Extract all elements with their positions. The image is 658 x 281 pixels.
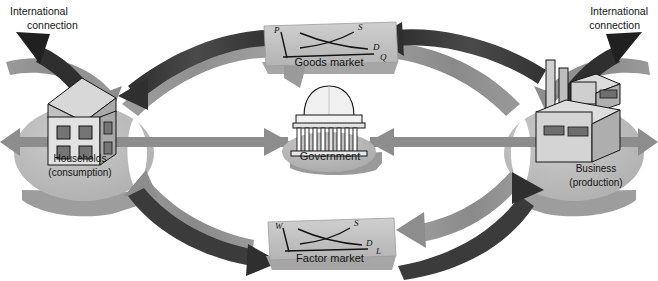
factory-upper-front [571, 82, 596, 104]
capitol-column [313, 128, 317, 152]
international-right-line1: International [590, 5, 648, 17]
factor-market-label: Factor market [296, 252, 364, 264]
house-window [79, 126, 92, 139]
goods-market-panel: P Q S D Goods market [262, 22, 398, 88]
house-side-window [104, 122, 112, 134]
factory-window [544, 126, 564, 135]
factor-market-panel: W L S D Factor market [266, 218, 396, 270]
goods-axis-y-label: P [273, 25, 280, 35]
light-arrow-bus-factor-head [396, 212, 426, 248]
gov-arrow-right-head-outer [638, 128, 658, 156]
capitol-column [345, 128, 349, 152]
capitol-column [321, 128, 325, 152]
business-label-line1: Business [576, 163, 617, 174]
international-right-line2: connection [589, 19, 640, 31]
house-window [57, 126, 70, 139]
households-label-line1: Households [54, 153, 107, 164]
government-label: Government [300, 150, 361, 162]
goods-demand-label: D [372, 42, 380, 52]
international-left-line2: connection [27, 19, 78, 31]
capitol-column [337, 128, 341, 152]
factor-axis-x-label: L [375, 246, 381, 256]
circular-flow-diagram: P Q S D Goods market W L S D Factor mark… [0, 0, 658, 281]
capitol-column [329, 128, 333, 152]
factor-supply-label: S [354, 218, 359, 228]
international-left-line1: International [10, 5, 68, 17]
factory-main-front [536, 112, 592, 162]
households-label-line2: (consumption) [48, 167, 111, 178]
capitol-column [297, 128, 301, 152]
goods-supply-label: S [358, 22, 363, 32]
factor-demand-label: D [365, 238, 373, 248]
goods-market-down-tab [284, 66, 306, 88]
capitol-column [353, 128, 357, 152]
factory-upper-window [600, 90, 617, 98]
capitol-column [305, 128, 309, 152]
gov-arrow-left-head-outer [0, 128, 20, 156]
flow-canvas: P Q S D Goods market W L S D Factor mark… [0, 0, 658, 281]
factory-window [568, 127, 588, 136]
business-label-line2: (production) [569, 177, 622, 188]
goods-market-label: Goods market [294, 56, 363, 68]
capitol-architrave [293, 123, 365, 128]
goods-axis-x-label: Q [380, 52, 387, 62]
